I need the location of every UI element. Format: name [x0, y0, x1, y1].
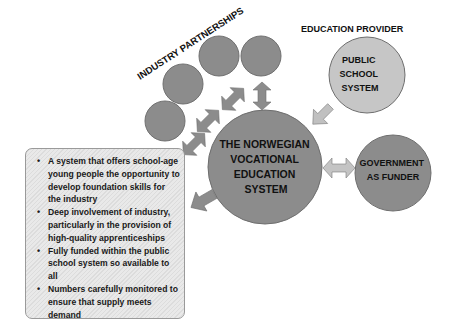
education-provider-label: EDUCATION PROVIDER — [301, 24, 404, 34]
benefit-item: Deep involvement of industry, particular… — [48, 206, 180, 244]
main-system-circle — [208, 110, 322, 224]
industry-circle-1 — [199, 36, 239, 76]
public-school-label: PUBLIC SCHOOL SYSTEM — [340, 55, 381, 93]
double-arrow-icon — [253, 82, 271, 110]
benefits-list: A system that offers school-age young pe… — [34, 155, 180, 321]
double-arrow-icon — [323, 158, 355, 178]
industry-circle-2 — [241, 36, 281, 76]
benefit-item: Fully funded within the public school sy… — [48, 245, 180, 283]
industry-circle-4 — [145, 101, 185, 141]
industry-circle-3 — [163, 64, 203, 104]
arrow-icon — [306, 99, 338, 131]
benefit-item: Numbers carefully monitored to ensure th… — [48, 283, 180, 321]
benefit-item: A system that offers school-age young pe… — [48, 155, 180, 206]
benefits-box: A system that offers school-age young pe… — [25, 148, 185, 319]
double-arrow-icon — [215, 81, 250, 116]
